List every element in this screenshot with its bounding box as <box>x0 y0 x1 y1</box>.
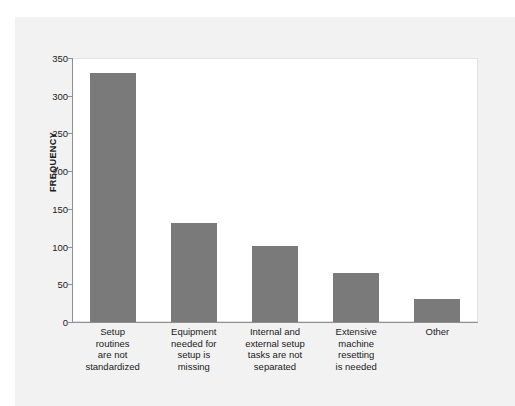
x-axis-label: Extensivemachineresettingis needed <box>316 326 397 372</box>
y-tick-mark <box>68 133 72 134</box>
y-tick-mark <box>68 247 72 248</box>
x-axis-label-line: tasks are not <box>234 349 315 361</box>
bars-layer <box>72 58 478 322</box>
chart-panel: FREQUENCY 050100150200250300350 Setuprou… <box>15 17 515 406</box>
y-tick-label: 250 <box>38 128 68 139</box>
x-axis-label: Setuproutinesare notstandardized <box>72 326 153 372</box>
x-axis-label-line: separated <box>234 361 315 373</box>
y-tick-label: 150 <box>38 203 68 214</box>
x-axis-label-line: Equipment <box>153 326 234 338</box>
x-axis-label: Internal andexternal setuptasks are nots… <box>234 326 315 372</box>
x-axis-line <box>72 322 478 323</box>
bar-chart-figure: FREQUENCY 050100150200250300350 Setuprou… <box>15 17 515 406</box>
y-tick-label: 200 <box>38 166 68 177</box>
bar[interactable] <box>171 223 217 322</box>
x-axis-label-line: external setup <box>234 338 315 350</box>
x-axis-label-line: missing <box>153 361 234 373</box>
y-tick-mark <box>68 58 72 59</box>
y-axis-ticks: 050100150200250300350 <box>30 17 68 406</box>
bar[interactable] <box>333 273 379 322</box>
y-tick-label: 350 <box>38 53 68 64</box>
x-axis-label-line: needed for <box>153 338 234 350</box>
y-tick-mark <box>68 171 72 172</box>
x-axis-label-line: Extensive <box>316 326 397 338</box>
x-axis-label: Equipmentneeded forsetup ismissing <box>153 326 234 372</box>
y-tick-label: 300 <box>38 90 68 101</box>
x-axis-label-line: standardized <box>72 361 153 373</box>
x-axis-label-line: Other <box>397 326 478 338</box>
x-axis-label-line: resetting <box>316 349 397 361</box>
y-tick-label: 50 <box>38 279 68 290</box>
x-axis-label: Other <box>397 326 478 338</box>
x-axis-label-line: Setup <box>72 326 153 338</box>
x-axis-label-line: routines <box>72 338 153 350</box>
y-tick-mark <box>68 209 72 210</box>
y-tick-mark <box>68 96 72 97</box>
bar[interactable] <box>252 246 298 322</box>
y-tick-mark <box>68 322 72 323</box>
bar[interactable] <box>90 73 136 322</box>
y-tick-mark <box>68 284 72 285</box>
x-axis-label-line: are not <box>72 349 153 361</box>
y-tick-label: 100 <box>38 241 68 252</box>
x-axis-label-line: setup is <box>153 349 234 361</box>
x-axis-label-line: machine <box>316 338 397 350</box>
x-axis-label-line: is needed <box>316 361 397 373</box>
bar[interactable] <box>414 299 460 322</box>
x-axis-label-line: Internal and <box>234 326 315 338</box>
y-tick-label: 0 <box>38 317 68 328</box>
x-axis-labels: Setuproutinesare notstandardizedEquipmen… <box>72 326 478 396</box>
